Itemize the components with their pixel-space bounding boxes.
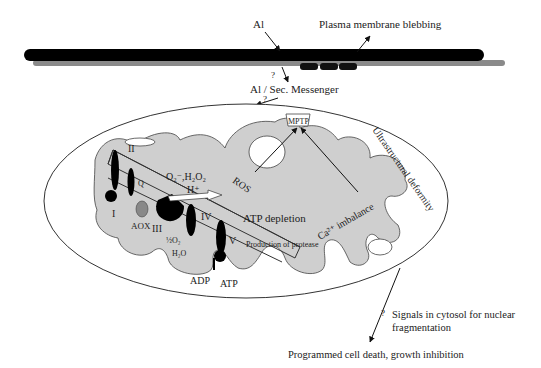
mitochondria-aluminum-diagram: Al Plasma membrane blebbing ? Al / Sec. …	[0, 0, 541, 368]
complex-I-label: I	[112, 208, 115, 219]
complex-II-label: II	[128, 143, 135, 154]
complex-V	[216, 220, 226, 254]
h-plus-label: H⁺	[187, 184, 200, 195]
half-o2-label: ½O₂	[166, 236, 181, 245]
signals-label-line2: fragmentation	[392, 322, 452, 333]
membrane-bleb-3	[339, 63, 357, 70]
complex-IV	[186, 204, 196, 236]
production-of-protease-label: Production of protease	[246, 240, 319, 249]
complex-I	[111, 150, 119, 190]
q-label: Q	[138, 179, 144, 188]
matrix-void-3	[368, 239, 392, 255]
aox-label: AOX	[131, 221, 151, 231]
signals-label-line1: Signals in cytosol for nuclear	[392, 309, 516, 320]
atp-depletion-label: ATP depletion	[243, 212, 306, 224]
complex-V-label: V	[229, 235, 237, 246]
plasma-membrane	[24, 49, 505, 70]
al-label: Al	[253, 18, 264, 30]
outcome-label: Programmed cell death, growth inhibition	[288, 349, 465, 360]
plasma-membrane-blebbing-label: Plasma membrane blebbing	[319, 18, 442, 30]
mptp-label: MPTP	[288, 117, 309, 126]
al-entry-arrow	[282, 67, 288, 82]
adp-label: ADP	[190, 275, 210, 286]
question-mark-1: ?	[271, 70, 275, 80]
atp-label: ATP	[220, 278, 238, 289]
membrane-bleb-2	[320, 63, 338, 70]
al-arrow	[265, 32, 280, 51]
complex-II	[128, 168, 135, 196]
membrane-bleb-1	[300, 63, 318, 70]
aox-protein	[136, 201, 148, 217]
complex-III-label: III	[152, 223, 162, 234]
complex-IV-label: IV	[201, 211, 212, 222]
h2o-label: H₂O	[172, 249, 187, 258]
matrix-void-1	[249, 136, 285, 168]
superoxide-label: O₂⁻,H₂O₂	[166, 171, 206, 182]
question-mark-3: ?	[381, 308, 385, 318]
